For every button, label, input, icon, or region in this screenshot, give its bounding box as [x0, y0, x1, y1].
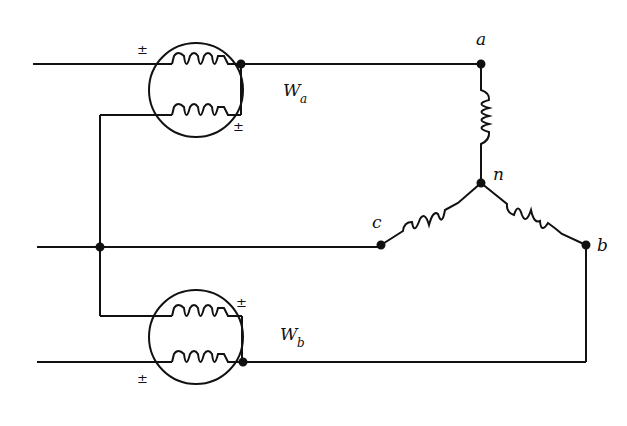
circuit-diagram: ± ± W a ± ± W b a n c b [0, 0, 627, 426]
line-b-wire [37, 245, 586, 362]
voltage-coil-return-wire [100, 115, 172, 316]
inductor-cn [381, 183, 481, 245]
wb-voltage-polarity-mark: ± [236, 295, 247, 310]
wa-label-subscript: a [300, 92, 307, 106]
wb-label-subscript: b [297, 336, 305, 350]
node-label-c: c [372, 212, 382, 232]
wattmeter-wa [149, 43, 245, 137]
wye-load [378, 61, 590, 249]
node-label-a: a [476, 29, 486, 49]
wattmeter-wb [149, 290, 247, 384]
node-label-b: b [597, 235, 608, 255]
wa-current-polarity-mark: ± [137, 42, 148, 57]
wa-voltage-polarity-mark: ± [233, 119, 244, 134]
wb-current-polarity-mark: ± [137, 371, 148, 386]
inductor-bn [481, 183, 586, 245]
node-label-n: n [493, 164, 504, 184]
junction-dot-c-return [97, 244, 104, 251]
inductor-an [481, 64, 489, 183]
